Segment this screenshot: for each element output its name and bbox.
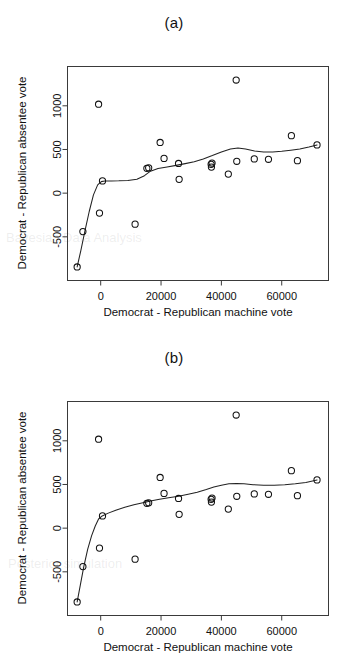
y-tick-label: 0 [52,525,64,531]
data-point [234,158,240,164]
data-point [265,156,271,162]
data-point [161,490,167,496]
data-point [233,77,239,83]
x-tick-label: 20000 [146,625,177,637]
data-point [251,156,257,162]
panel-b-plot: 0200004000060000 -50005001000 Democrat -… [0,335,348,670]
panel-a-data-points [74,77,320,270]
y-tick-label: 1000 [52,94,64,118]
x-tick-label: 60000 [266,290,297,302]
data-point [132,556,138,562]
panel-b-x-tick-labels: 0200004000060000 [98,625,297,637]
x-tick-label: 40000 [206,290,237,302]
data-point [294,158,300,164]
panel-b-fit-line [77,480,317,602]
data-point [251,491,257,497]
data-point [132,221,138,227]
panel-a-frame [68,67,329,281]
data-point [294,493,300,499]
panel-b-y-tick-labels: -50005001000 [52,429,64,583]
figure-two-panel-scatter: Bayesian Data Analysis Posterior simulat… [0,0,348,670]
data-point [225,506,231,512]
data-point [288,468,294,474]
data-point [175,160,181,166]
x-tick-label: 0 [98,290,104,302]
data-point [265,491,271,497]
data-point [233,412,239,418]
panel-a-fit-line [77,145,317,267]
data-point [96,210,102,216]
x-tick-label: 0 [98,625,104,637]
panel-a-y-axis-label: Democrat - Republican absentee vote [16,76,28,269]
panel-b-x-axis-label: Democrat - Republican machine vote [103,641,292,653]
x-tick-label: 40000 [206,625,237,637]
panel-b-x-ticks [101,616,282,621]
data-point [96,545,102,551]
data-point [225,171,231,177]
panel-b: (b) 0200004000060000 -50005001000 Democr… [0,335,348,670]
panel-b-y-axis-label: Democrat - Republican absentee vote [16,411,28,604]
data-point [157,474,163,480]
panel-a-x-ticks [101,281,282,286]
panel-a-y-ticks [63,106,68,237]
data-point [176,176,182,182]
data-point [157,139,163,145]
data-point [176,511,182,517]
panel-a-plot: 0200004000060000 -50005001000 Democrat -… [0,0,348,335]
data-point [95,436,101,442]
data-point [161,155,167,161]
panel-b-data-points [74,412,320,605]
y-tick-label: -500 [52,226,64,248]
y-tick-label: 500 [52,140,64,158]
panel-a-y-tick-labels: -50005001000 [52,94,64,248]
y-tick-label: 1000 [52,429,64,453]
y-tick-label: -500 [52,561,64,583]
panel-a-x-tick-labels: 0200004000060000 [98,290,297,302]
panel-a-x-axis-label: Democrat - Republican machine vote [103,306,292,318]
panel-a: (a) 0200004000060000 -50005001000 Democr… [0,0,348,335]
data-point [95,101,101,107]
x-tick-label: 20000 [146,290,177,302]
data-point [234,493,240,499]
x-tick-label: 60000 [266,625,297,637]
y-tick-label: 500 [52,475,64,493]
y-tick-label: 0 [52,190,64,196]
panel-b-y-ticks [63,441,68,572]
data-point [288,133,294,139]
panel-b-frame [68,402,329,616]
